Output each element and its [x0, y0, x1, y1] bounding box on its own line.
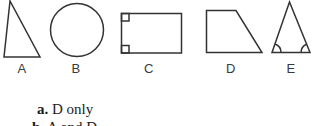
option-a-text: D only — [52, 101, 93, 117]
shape-d-trapezoid — [207, 11, 263, 53]
shape-label-e: E — [281, 61, 301, 76]
angle-arc-left — [275, 44, 281, 53]
shape-label-b: B — [66, 61, 86, 76]
shape-label-a: A — [12, 61, 32, 76]
shape-c-rectangle — [122, 14, 182, 54]
angle-arc-right — [301, 44, 307, 52]
answer-option-b-clipped: b. A and D — [32, 119, 97, 126]
shape-a-right-triangle — [4, 1, 40, 57]
right-angle-mark-top — [122, 14, 130, 22]
question-figure-panel: A B C D E a. D only b. A and D — [0, 0, 315, 126]
option-a-letter: a. — [37, 101, 48, 117]
option-b-letter: b. — [32, 119, 44, 126]
right-angle-mark-bottom — [122, 46, 130, 54]
option-b-text: A and D — [47, 119, 97, 126]
shape-label-c: C — [139, 61, 159, 76]
shape-b-circle — [51, 4, 104, 57]
answer-option-a: a. D only — [37, 101, 93, 117]
shape-label-d: D — [221, 61, 241, 76]
